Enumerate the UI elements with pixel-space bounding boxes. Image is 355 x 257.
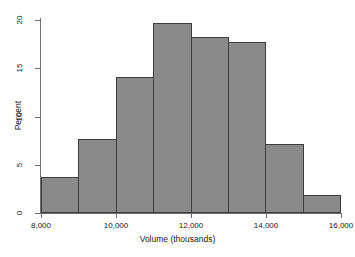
x-tick-label: 16,000 <box>329 221 353 230</box>
x-tick-mark <box>191 213 192 218</box>
y-tick-mark <box>35 165 40 166</box>
histogram-bars <box>41 20 341 213</box>
histogram-bar <box>116 77 154 213</box>
x-tick-mark <box>41 213 42 218</box>
y-tick-label: 15 <box>16 64 24 73</box>
x-axis-title-label: Volume (thousands) <box>140 234 216 244</box>
y-tick-mark <box>35 213 40 214</box>
histogram-bar <box>303 195 341 213</box>
histogram-bar <box>153 23 191 213</box>
y-tick-mark <box>35 117 40 118</box>
x-tick-mark <box>266 213 267 218</box>
plot-area <box>41 18 341 213</box>
x-tick-label: 12,000 <box>179 221 203 230</box>
y-tick-label: 20 <box>16 16 24 25</box>
histogram-bar <box>78 139 116 213</box>
y-tick-mark <box>35 20 40 21</box>
histogram-bar <box>191 37 229 213</box>
histogram-bar <box>41 177 79 213</box>
x-axis-title: Volume (thousands) <box>0 234 355 244</box>
y-tick-mark <box>35 68 40 69</box>
histogram-bar <box>228 42 266 213</box>
y-tick-label: 5 <box>16 163 24 167</box>
x-tick-mark <box>341 213 342 218</box>
x-tick-label: 14,000 <box>254 221 278 230</box>
y-tick-label: 0 <box>16 211 24 215</box>
x-tick-label: 10,000 <box>104 221 128 230</box>
histogram-bar <box>265 144 303 213</box>
x-tick-label: 8,000 <box>31 221 51 230</box>
x-tick-mark <box>116 213 117 218</box>
histogram-figure: Percent 05101520 8,00010,00012,00014,000… <box>0 0 355 257</box>
y-tick-label: 10 <box>16 112 24 121</box>
